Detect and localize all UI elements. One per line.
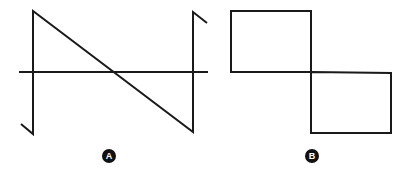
sawtooth-waveform-a (19, 11, 208, 134)
square-upper-box (231, 11, 311, 72)
square-waveform-b (231, 11, 391, 133)
waveform-diagrams (0, 0, 405, 176)
figure-label-b: B (305, 149, 319, 163)
square-lower-box (311, 72, 391, 133)
figure-label-a: A (102, 149, 116, 163)
